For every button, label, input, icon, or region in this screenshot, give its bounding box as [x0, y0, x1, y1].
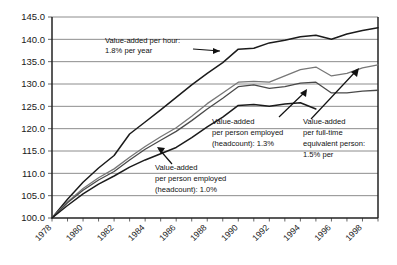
- y-axis-tick-label: 115.0: [22, 145, 45, 156]
- anno-fte-line-2: equivalent person:: [303, 139, 365, 148]
- y-axis-tick-label: 120.0: [21, 123, 45, 134]
- y-axis-tick-label: 110.0: [22, 168, 45, 179]
- y-axis-tick-label: 100.0: [21, 212, 45, 223]
- y-axis-tick-label: 140.0: [21, 34, 45, 45]
- y-axis-tick-label: 130.0: [21, 78, 45, 89]
- anno-hc10-line-0: Value-added: [155, 163, 198, 172]
- y-axis-tick-label: 135.0: [21, 56, 45, 67]
- y-axis-tick-label: 105.0: [21, 190, 45, 201]
- anno-hc10-line-2: (headcount): 1.0%: [155, 185, 217, 194]
- anno-hc13-line-2: (headcount): 1.3%: [212, 139, 274, 148]
- anno-per-hour-line-1: 1.8% per year: [105, 46, 153, 55]
- anno-fte-line-0: Value-added: [303, 117, 346, 126]
- y-axis-tick-label: 125.0: [21, 101, 45, 112]
- line-chart: 100.0105.0110.0115.0120.0125.0130.0135.0…: [0, 0, 397, 265]
- anno-hc13-line-0: Value-added: [212, 117, 255, 126]
- chart-svg: 100.0105.0110.0115.0120.0125.0130.0135.0…: [0, 0, 397, 265]
- anno-fte-line-3: 1.5% per: [303, 150, 334, 159]
- anno-per-hour-line-0: Value-added per hour:: [105, 36, 180, 45]
- anno-fte-line-1: per full-time: [303, 128, 343, 137]
- y-axis-tick-label: 145.0: [21, 11, 45, 22]
- anno-hc13-line-1: per person employed: [212, 128, 283, 137]
- anno-hc10-line-1: per person employed: [155, 174, 226, 183]
